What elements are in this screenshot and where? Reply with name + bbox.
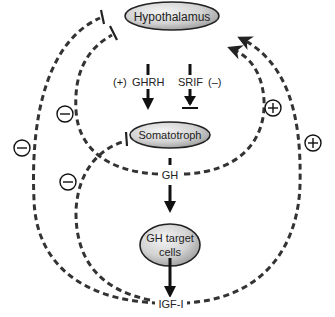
igf1-label: IGF-I — [158, 298, 183, 310]
node-somatotroph: Somatotroph — [130, 122, 210, 148]
minus-sign-inner-left — [57, 106, 73, 122]
inhibit-bar-outer — [101, 10, 104, 24]
inhibit-bar-inner — [110, 26, 117, 40]
gh-label: GH — [162, 169, 179, 181]
srif-label: SRIF — [178, 76, 203, 88]
inhibit-bar-somatotroph — [126, 132, 127, 146]
gh-arrow — [164, 185, 176, 213]
gh-target-label-2: cells — [159, 246, 182, 258]
plus-sign-inner-right — [265, 100, 281, 116]
hypothalamus-label: Hypothalamus — [134, 10, 211, 24]
feedback-gh-hypothalamus-positive — [184, 48, 264, 174]
srif-effect-sign: (–) — [208, 76, 221, 88]
gh-axis-diagram: Hypothalamus (+) GHRH SRIF (–) Somatotro… — [0, 0, 335, 317]
ghrh-label: GHRH — [132, 76, 164, 88]
gh-target-label-1: GH target — [146, 232, 194, 244]
plus-sign-outer-right — [305, 135, 321, 151]
somatotroph-label: Somatotroph — [139, 129, 202, 141]
node-hypothalamus: Hypothalamus — [125, 2, 219, 30]
minus-sign-outer-left — [14, 140, 30, 156]
ghrh-effect-sign: (+) — [113, 76, 127, 88]
minus-sign-somatotroph — [60, 174, 76, 190]
